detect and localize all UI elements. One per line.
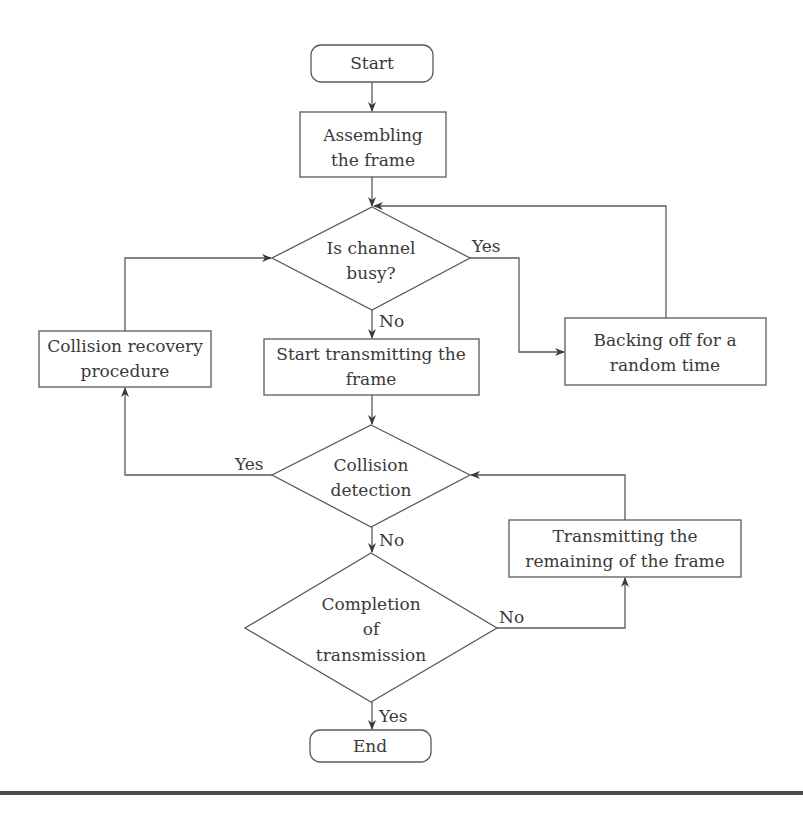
node-end-label: End <box>353 736 387 756</box>
node-recovery: Collision recovery procedure <box>39 331 211 387</box>
node-completion-line-2: of <box>363 619 381 639</box>
decision-shape <box>272 425 470 527</box>
node-busy-line-2: busy? <box>346 263 395 283</box>
flowchart-canvas: Start Assembling the frame Is channel bu… <box>0 0 803 813</box>
node-assemble-line-2: the frame <box>331 150 415 170</box>
node-collision: Collision detection <box>272 425 470 527</box>
node-channel-busy: Is channel busy? <box>272 207 470 310</box>
node-txremaining-line-1: Transmitting the <box>552 526 697 546</box>
label-busy-yes: Yes <box>471 236 501 256</box>
edge-busy-yes-backoff <box>470 258 564 352</box>
node-end: End <box>310 730 431 762</box>
node-backoff-line-2: random time <box>610 355 720 375</box>
node-collision-line-1: Collision <box>334 455 409 475</box>
node-start-tx: Start transmitting the frame <box>264 339 479 395</box>
node-backoff-line-1: Backing off for a <box>593 330 736 350</box>
node-tx-remaining: Transmitting the remaining of the frame <box>509 520 741 577</box>
node-txremaining-line-2: remaining of the frame <box>525 551 724 571</box>
node-assemble-line-1: Assembling <box>322 125 423 145</box>
decision-shape <box>272 207 470 310</box>
node-starttx-line-2: frame <box>346 369 397 389</box>
node-completion-line-3: transmission <box>316 645 426 665</box>
bottom-rule-divider <box>0 791 803 795</box>
edge-txremaining-collision <box>471 475 625 520</box>
node-collision-line-2: detection <box>331 480 412 500</box>
node-recovery-line-2: procedure <box>81 361 170 381</box>
node-completion: Completion of transmission <box>245 553 497 702</box>
node-busy-line-1: Is channel <box>327 238 416 258</box>
node-recovery-line-1: Collision recovery <box>47 336 203 356</box>
label-completion-no: No <box>499 607 524 627</box>
label-busy-no: No <box>379 311 404 331</box>
node-assemble: Assembling the frame <box>300 112 446 177</box>
label-collision-yes: Yes <box>234 454 264 474</box>
node-start-label: Start <box>350 53 394 73</box>
node-start: Start <box>311 45 433 82</box>
node-starttx-line-1: Start transmitting the <box>276 344 465 364</box>
label-completion-yes: Yes <box>378 706 408 726</box>
node-backoff: Backing off for a random time <box>565 318 766 385</box>
node-completion-line-1: Completion <box>321 594 420 614</box>
label-collision-no: No <box>379 530 404 550</box>
edge-recovery-busy <box>125 258 271 331</box>
